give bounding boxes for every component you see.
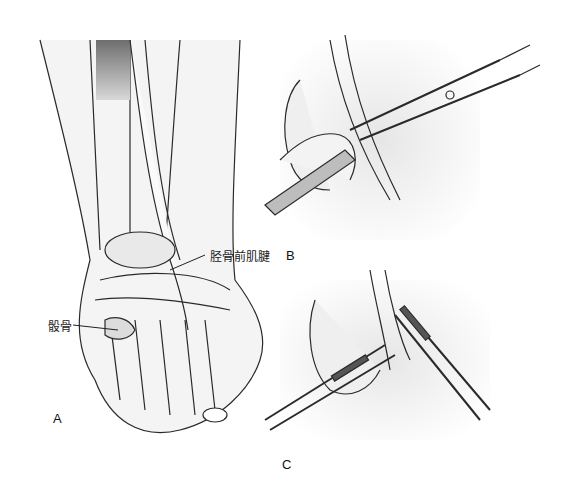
panel-letter-a: A xyxy=(53,411,62,426)
tendon-label: 胫骨前肌腱 xyxy=(210,247,270,264)
figure-canvas: A B C xyxy=(0,0,566,502)
panel-letter-c: C xyxy=(282,457,291,472)
panel-a-illustration xyxy=(40,40,263,433)
cuboid-label: 骰骨 xyxy=(48,317,72,334)
panel-b-illustration xyxy=(265,35,540,240)
panel-letter-b: B xyxy=(286,248,295,263)
panel-c-illustration xyxy=(265,270,490,440)
